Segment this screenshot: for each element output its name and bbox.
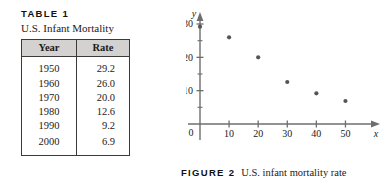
infant-mortality-table: Year Rate 1950 29.2 1960 26.0 1970 20.0 … xyxy=(21,39,130,156)
y-tick-label: 20 xyxy=(186,52,193,63)
table-row: 1970 20.0 xyxy=(22,91,130,105)
x-tick-label: 50 xyxy=(340,128,350,139)
cell-year: 1980 xyxy=(22,105,77,119)
x-tick-label: 30 xyxy=(282,128,292,139)
cell-rate: 26.0 xyxy=(77,77,130,91)
cell-rate: 6.9 xyxy=(77,133,130,156)
cell-year: 1970 xyxy=(22,91,77,105)
y-tick-label: 30 xyxy=(186,18,193,29)
figure-caption-text: U.S. infant mortality rate xyxy=(241,167,346,178)
table-row: 1990 9.2 xyxy=(22,119,130,133)
x-tick-label: 10 xyxy=(224,128,234,139)
data-point xyxy=(343,99,347,103)
figure-caption: FIGURE 2U.S. infant mortality rate xyxy=(181,162,347,178)
data-point xyxy=(256,55,260,59)
origin-label: 0 xyxy=(189,127,194,138)
table-header-row: Year Rate xyxy=(22,40,130,57)
table-row: 1960 26.0 xyxy=(22,77,130,91)
cell-year: 1950 xyxy=(22,57,77,78)
cell-year: 1960 xyxy=(22,77,77,91)
data-point xyxy=(198,25,202,29)
cell-rate: 9.2 xyxy=(77,119,130,133)
data-point xyxy=(227,35,231,39)
cell-rate: 20.0 xyxy=(77,91,130,105)
figure-container: yx01020301020304050 FIGURE 2U.S. infant … xyxy=(186,6,386,176)
table-subtitle: U.S. Infant Mortality xyxy=(21,21,161,35)
x-tick-label: 40 xyxy=(311,128,321,139)
data-point xyxy=(285,80,289,84)
table-container: TABLE 1 U.S. Infant Mortality Year Rate … xyxy=(21,8,161,156)
column-header-year: Year xyxy=(22,40,77,57)
cell-rate: 12.6 xyxy=(77,105,130,119)
y-tick-label: 10 xyxy=(186,85,193,96)
cell-year: 2000 xyxy=(22,133,77,156)
x-axis-label: x xyxy=(373,128,379,139)
data-point xyxy=(314,91,318,95)
table-label: TABLE 1 xyxy=(21,8,161,20)
table-row: 1980 12.6 xyxy=(22,105,130,119)
y-axis-label: y xyxy=(191,8,197,19)
cell-year: 1990 xyxy=(22,119,77,133)
figure-label: FIGURE 2 xyxy=(181,167,235,178)
scatter-plot: yx01020301020304050 xyxy=(186,6,386,151)
y-axis-arrow-icon xyxy=(197,12,204,21)
x-axis-arrow-icon xyxy=(371,121,380,128)
cell-rate: 29.2 xyxy=(77,57,130,78)
column-header-rate: Rate xyxy=(77,40,130,57)
table-row: 1950 29.2 xyxy=(22,57,130,78)
table-row: 2000 6.9 xyxy=(22,133,130,156)
x-tick-label: 20 xyxy=(253,128,263,139)
